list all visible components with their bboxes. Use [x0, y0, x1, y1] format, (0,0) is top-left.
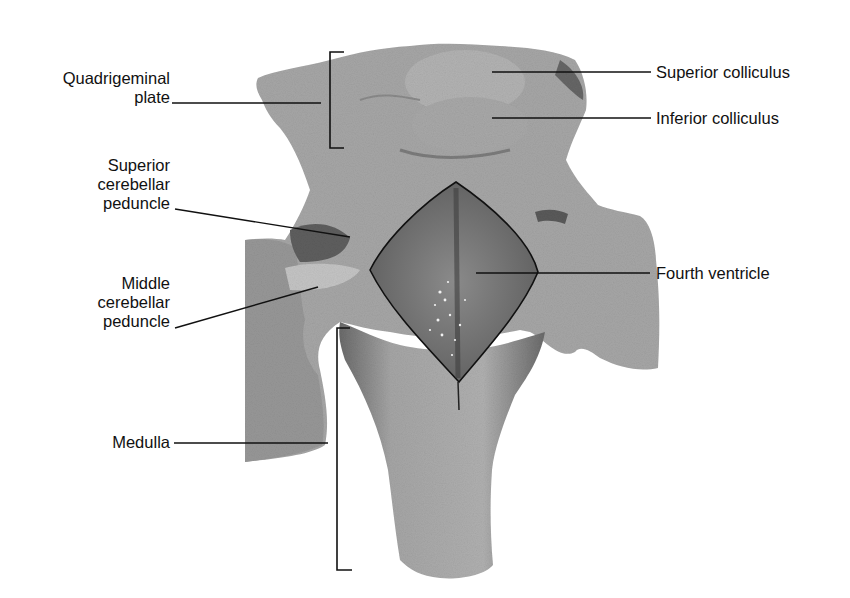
label-inferior-colliculus: Inferior colliculus [656, 109, 779, 128]
label-fourth-ventricle: Fourth ventricle [656, 264, 770, 283]
label-line: plate [20, 88, 170, 107]
label-line: cerebellar [20, 293, 170, 312]
label-line: Superior [20, 156, 170, 175]
brainstem-figure: Quadrigeminal plate Superior cerebellar … [0, 0, 850, 598]
label-line: peduncle [20, 312, 170, 331]
label-line: cerebellar [20, 175, 170, 194]
label-line: Inferior colliculus [656, 109, 779, 128]
label-line: Superior colliculus [656, 63, 790, 82]
label-superior-cerebellar-peduncle: Superior cerebellar peduncle [20, 156, 170, 213]
label-line: peduncle [20, 194, 170, 213]
label-line: Fourth ventricle [656, 264, 770, 283]
label-quadrigeminal-plate: Quadrigeminal plate [20, 69, 170, 107]
label-superior-colliculus: Superior colliculus [656, 63, 790, 82]
label-medulla: Medulla [20, 433, 170, 452]
label-line: Middle [20, 274, 170, 293]
label-line: Medulla [20, 433, 170, 452]
label-middle-cerebellar-peduncle: Middle cerebellar peduncle [20, 274, 170, 331]
label-line: Quadrigeminal [20, 69, 170, 88]
